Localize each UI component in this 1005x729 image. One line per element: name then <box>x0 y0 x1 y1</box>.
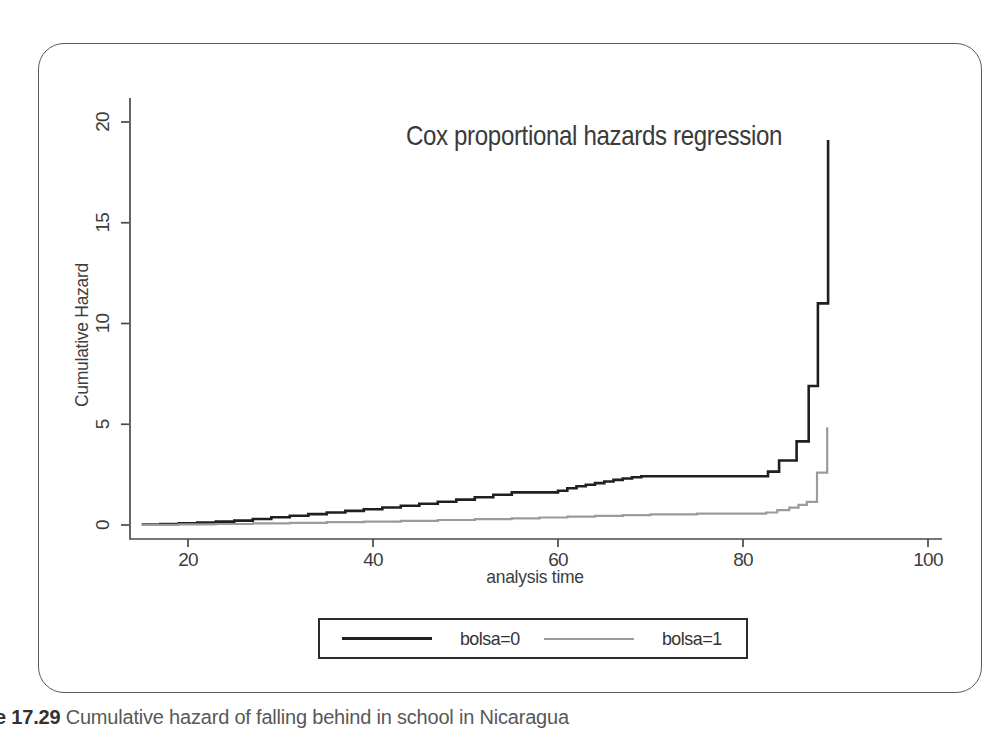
x-tick-label: 80 <box>733 549 753 570</box>
y-axis-title: Cumulative Hazard <box>71 263 93 407</box>
caption-number: 17.29 <box>11 706 60 728</box>
legend-entry-bolsa0: bolsa=0 <box>342 628 522 650</box>
caption-prefix: Figure <box>0 706 6 728</box>
legend-label-bolsa1: bolsa=1 <box>662 628 722 650</box>
legend: bolsa=0 bolsa=1 <box>318 618 748 659</box>
y-tick-label: 0 <box>92 520 113 530</box>
figure-caption: Figure 17.29 Cumulative hazard of fallin… <box>0 706 846 729</box>
legend-line-bolsa1-swatch <box>544 638 634 640</box>
x-tick-label: 40 <box>363 549 383 570</box>
y-tick-label: 10 <box>92 314 113 334</box>
legend-line-bolsa0-swatch <box>342 637 432 640</box>
y-tick-label: 15 <box>92 213 113 233</box>
caption-text: Cumulative hazard of falling behind in s… <box>66 706 569 728</box>
y-tick-label: 5 <box>92 419 113 429</box>
x-axis-title: analysis time <box>486 566 583 588</box>
x-tick-label: 20 <box>178 549 198 570</box>
x-tick-label: 100 <box>913 549 943 570</box>
legend-label-bolsa0: bolsa=0 <box>460 628 520 650</box>
y-tick-label: 20 <box>92 112 113 132</box>
legend-entry-bolsa1: bolsa=1 <box>544 628 724 650</box>
curve-bolsa=0 <box>142 140 828 524</box>
